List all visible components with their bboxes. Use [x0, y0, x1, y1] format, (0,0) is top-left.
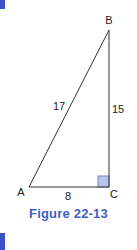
vertex-label-c: C — [110, 188, 118, 200]
vertex-label-b: B — [105, 14, 112, 26]
side-label-ac: 8 — [65, 190, 71, 202]
side-label-bc: 15 — [112, 103, 124, 115]
figure-caption: Figure 22-13 — [0, 206, 137, 221]
side-ab — [29, 30, 109, 187]
right-angle-marker — [98, 176, 109, 187]
vertex-label-a: A — [17, 186, 25, 198]
side-label-ab: 17 — [53, 100, 65, 112]
